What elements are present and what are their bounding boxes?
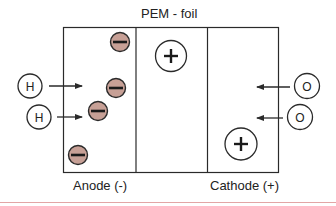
oxygen-atom-icon: O [295, 74, 320, 99]
proton-icon [225, 128, 257, 160]
electron-icon [89, 102, 108, 121]
electron-icon [111, 33, 130, 52]
diagram-title: PEM - foil [141, 7, 197, 20]
cathode-label: Cathode (+) [210, 179, 279, 192]
proton-icon [156, 41, 187, 72]
pem-fuel-cell-diagram: H H O O PEM - foil Anode (-) Cathode (+) [0, 0, 336, 206]
anode-label: Anode (-) [73, 179, 127, 192]
electron-icon [69, 146, 88, 165]
hydrogen-symbol: H [35, 111, 44, 125]
oxygen-symbol: O [302, 80, 311, 94]
oxygen-atom-icon: O [288, 105, 313, 130]
diagram-canvas: H H O O [0, 0, 336, 206]
hydrogen-atom-icon: H [27, 105, 51, 129]
electron-icon [107, 79, 126, 98]
hydrogen-atom-icon: H [18, 74, 42, 98]
oxygen-symbol: O [295, 111, 304, 125]
hydrogen-symbol: H [26, 80, 35, 94]
